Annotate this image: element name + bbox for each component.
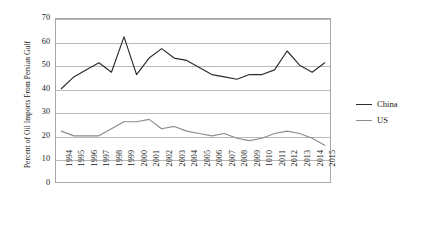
legend-swatch-icon [356, 104, 372, 105]
x-tick-label: 2013 [303, 150, 312, 186]
chart-figure: Percent of Oil Imports From Persian Gulf… [0, 0, 431, 226]
x-tick-label: 2012 [290, 150, 299, 186]
x-tick-label: 2008 [240, 150, 249, 186]
x-tick-label: 2014 [316, 150, 325, 186]
x-tick-label: 2003 [178, 150, 187, 186]
legend-label: US [377, 116, 388, 125]
x-tick-label: 2007 [228, 150, 237, 186]
x-tick-label: 1997 [102, 150, 111, 186]
x-tick-label: 2002 [165, 150, 174, 186]
x-tick-label: 1010 [265, 150, 274, 186]
chart-legend: ChinaUS [356, 96, 428, 128]
x-tick-label: 2001 [152, 150, 161, 186]
x-tick-label: 2005 [203, 150, 212, 186]
x-tick-label: 2004 [190, 150, 199, 186]
legend-label: China [377, 100, 398, 109]
x-tick-label: 2011 [278, 150, 287, 186]
x-tick-label: 2006 [215, 150, 224, 186]
legend-item-us[interactable]: US [356, 112, 428, 128]
x-tick-label: 2009 [253, 150, 262, 186]
x-tick-label: 2000 [140, 150, 149, 186]
x-tick-label: 1998 [115, 150, 124, 186]
x-tick-label: 2015 [328, 150, 337, 186]
x-tick-label: 1996 [90, 150, 99, 186]
x-tick-label: 1995 [77, 150, 86, 186]
x-tick-label: 1999 [127, 150, 136, 186]
legend-swatch-icon [356, 120, 372, 121]
x-tick-label: 1994 [65, 150, 74, 186]
legend-item-china[interactable]: China [356, 96, 428, 112]
